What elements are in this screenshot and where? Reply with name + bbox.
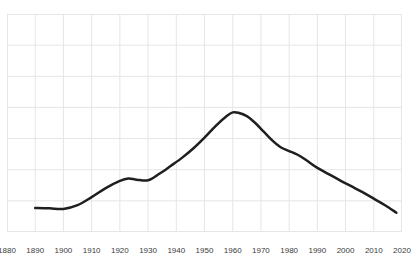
x-tick-label: 1950 xyxy=(190,245,220,256)
x-tick-label: 2010 xyxy=(359,245,389,256)
series-line-layer xyxy=(7,14,402,232)
x-tick-label: 1900 xyxy=(48,245,78,256)
x-tick-label: 2020 xyxy=(387,245,416,256)
x-tick-label: 1980 xyxy=(274,245,304,256)
x-tick-label: 1880 xyxy=(0,245,22,256)
x-tick-label: 1930 xyxy=(133,245,163,256)
x-axis: 1880189019001910192019301940195019601970… xyxy=(0,245,410,259)
x-tick-label: 1920 xyxy=(105,245,135,256)
x-tick-label: 1960 xyxy=(218,245,248,256)
x-tick-label: 1970 xyxy=(246,245,276,256)
x-tick-label: 2000 xyxy=(331,245,361,256)
plot-area xyxy=(7,14,402,232)
x-tick-label: 1890 xyxy=(20,245,50,256)
x-tick-label: 1990 xyxy=(302,245,332,256)
x-tick-label: 1910 xyxy=(77,245,107,256)
series-line xyxy=(35,112,396,213)
x-tick-label: 1940 xyxy=(161,245,191,256)
